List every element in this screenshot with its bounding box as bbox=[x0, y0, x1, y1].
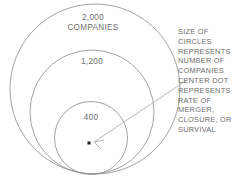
annotation-dot-line-5: CLOSURE, OR bbox=[178, 115, 233, 125]
leader-arrowhead bbox=[94, 140, 104, 149]
ring-label-middle-value: 1,200 bbox=[52, 57, 132, 67]
annotation-size-line-1: SIZE OF bbox=[178, 27, 233, 37]
leader-line bbox=[94, 78, 190, 142]
ring-label-middle: 1,200 bbox=[52, 57, 132, 67]
ring-label-outer-value: 2,000 bbox=[48, 13, 138, 23]
annotation-size-line-2: CIRCLES bbox=[178, 37, 233, 47]
annotation-dot-line-3: RATE OF bbox=[178, 96, 233, 106]
annotation-size-note: SIZE OFCIRCLESREPRESENTSNUMBER OFCOMPANI… bbox=[178, 27, 233, 76]
annotation-size-line-3: REPRESENTS bbox=[178, 47, 233, 57]
nested-circles-diagram: 2,000COMPANIES 1,200 400 SIZE OFCIRCLESR… bbox=[0, 0, 233, 182]
annotation-dot-line-1: CENTER DOT bbox=[178, 76, 233, 86]
ring-label-outer: 2,000COMPANIES bbox=[48, 13, 138, 33]
annotation-dot-line-2: REPRESENTS bbox=[178, 86, 233, 96]
annotation-dot-line-4: MERGER, bbox=[178, 105, 233, 115]
annotation-size-line-5: COMPANIES bbox=[178, 66, 233, 76]
ring-label-outer-unit: COMPANIES bbox=[48, 23, 138, 33]
annotation-dot-line-6: SURVIVAL bbox=[178, 125, 233, 135]
annotation-size-line-4: NUMBER OF bbox=[178, 56, 233, 66]
center-dot bbox=[88, 142, 91, 145]
circle-middle bbox=[30, 50, 154, 174]
annotation-dot-note: CENTER DOTREPRESENTSRATE OFMERGER,CLOSUR… bbox=[178, 76, 233, 135]
ring-label-inner: 400 bbox=[61, 113, 121, 123]
ring-label-inner-value: 400 bbox=[61, 113, 121, 123]
